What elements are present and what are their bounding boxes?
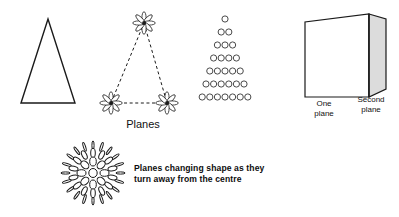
plane-ellipse [73,146,80,155]
plane-ellipse [90,180,97,189]
pyramid-circle [226,81,232,87]
pyramid-circle [199,94,205,100]
flower-core [165,101,169,105]
one-plane-label-line1: One [303,99,345,109]
planes-label: Planes [108,118,178,130]
plane-ellipse [73,191,80,200]
pyramid-circle [230,68,236,74]
plane-ellipse [82,194,87,203]
front-plane-shape [305,14,369,97]
pyramid-circle [226,29,232,35]
plane-ellipse [90,157,97,166]
row-7 [199,94,251,100]
plane-ellipse [108,165,118,172]
plane-ellipse [89,169,97,178]
one-plane-label: One plane [303,99,345,118]
pyramid-circle [233,55,239,61]
circle-pyramid-figure [190,8,270,113]
sphere-plane-ellipses [61,141,125,205]
pyramid-circle [203,81,209,87]
pyramid-circle [214,42,220,48]
bottom-caption: Planes changing shape as they turn away … [134,163,384,185]
solid-triangle-figure [0,0,100,115]
flower-bottom-right [156,92,179,115]
pyramid-circle [230,42,236,48]
pyramid-circle [241,81,247,87]
bottom-caption-line2: turn away from the centre [134,174,384,185]
pyramid-circle [226,55,232,61]
bottom-caption-line1: Planes changing shape as they [134,163,384,174]
row-1 [222,16,228,22]
two-planes-figure [298,8,396,103]
pyramid-circle [214,94,220,100]
plane-ellipse [69,165,79,172]
plane-ellipse [106,191,113,200]
row-2 [218,29,232,35]
second-plane-label-line2: plane [348,105,394,115]
plane-ellipse [98,150,106,160]
second-plane-label-line1: Second [348,95,394,105]
plane-ellipse [100,170,109,177]
pyramid-circle [211,55,217,61]
pyramid-circle [214,68,220,74]
pyramid-circle [218,29,224,35]
plane-ellipse [99,194,104,203]
side-plane-shape [369,14,386,97]
row-4 [211,55,240,61]
sphere-cluster-figure [58,138,128,208]
plane-ellipse [108,174,118,181]
plane-ellipse [80,150,88,160]
plane-ellipse [91,188,96,197]
plane-ellipse [82,142,87,151]
row-3 [214,42,235,48]
flower-apex [133,12,156,35]
solid-triangle-outline [21,19,75,103]
pyramid-circle [233,81,239,87]
flower-core [109,101,113,105]
figure-canvas: Planes One plane Second plane Planes cha… [0,0,399,217]
pyramid-circle [218,55,224,61]
flower-bottom-left [100,92,123,115]
pyramid-circle [222,42,228,48]
pyramid-circle [222,94,228,100]
dashed-triangle-figure [95,0,190,120]
ring-centre [89,169,97,178]
second-plane-label: Second plane [348,95,394,114]
one-plane-label-line2: plane [303,109,345,119]
pyramid-circle [218,81,224,87]
row-5 [207,68,244,74]
plane-ellipse [106,146,113,155]
plane-ellipse [98,186,106,196]
pyramid-circle [237,68,243,74]
dashed-triangle-outline [111,23,167,103]
plane-ellipse [69,174,79,181]
flower-core [142,21,146,25]
pyramid-circle [245,94,251,100]
pyramid-circle [207,68,213,74]
pyramid-circle [222,68,228,74]
pyramid-circle [211,81,217,87]
dashed-triangle-vertex-flowers [100,12,179,115]
circle-pyramid-rows [199,16,251,100]
pyramid-circle [237,94,243,100]
pyramid-circle [230,94,236,100]
plane-ellipse [116,172,125,174]
plane-ellipse [80,186,88,196]
pyramid-circle [207,94,213,100]
plane-ellipse [91,148,96,157]
plane-ellipse [99,142,104,151]
pyramid-circle [222,16,228,22]
row-6 [203,81,247,87]
plane-ellipse [61,172,70,174]
plane-ellipse [77,170,86,177]
